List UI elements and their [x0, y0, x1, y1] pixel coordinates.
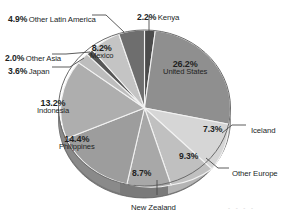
label-other-europe-pct-wrap: 9.3% [179, 146, 198, 163]
label-japan: 3.6%Japan [8, 61, 49, 78]
label-indonesia: 13.2% Indonesia [37, 99, 69, 115]
label-new-zealand: New Zealand [131, 197, 176, 214]
label-other-europe-pct: 9.3% [179, 151, 198, 161]
label-other-latin-america: 4.9%Other Latin America [8, 9, 96, 26]
label-philippines: 14.4% Philippines [59, 135, 95, 151]
pie-chart-figure: 4.9%Other Latin America 2.2%Kenya 2.0%Ot… [0, 0, 289, 217]
label-philippines-name: Philippines [59, 143, 95, 151]
label-new-zealand-pct-wrap: 8.7% [132, 163, 151, 180]
label-kenya-name: Kenya [158, 13, 180, 22]
label-other-europe: Other Europe [232, 163, 278, 180]
label-kenya: 2.2%Kenya [137, 7, 179, 24]
label-indonesia-name: Indonesia [37, 107, 69, 115]
leader-line-other-latin-america [92, 15, 124, 32]
label-other-latin-america-pct: 4.9% [8, 14, 27, 24]
label-mexico-name: Mexico [90, 52, 113, 60]
label-iceland: Iceland [251, 120, 275, 137]
label-new-zealand-name: New Zealand [131, 203, 176, 212]
label-united-states: 26.2% United States [163, 60, 207, 76]
label-kenya-pct: 2.2% [137, 12, 156, 22]
label-iceland-name: Iceland [251, 126, 275, 135]
label-japan-pct: 3.6% [8, 66, 27, 76]
label-iceland-pct: 7.3% [203, 124, 222, 134]
label-iceland-pct-wrap: 7.3% [203, 119, 222, 136]
label-united-states-name: United States [163, 68, 207, 76]
label-new-zealand-pct: 8.7% [132, 168, 151, 178]
label-mexico: 8.2% Mexico [90, 44, 113, 60]
label-other-europe-name: Other Europe [232, 169, 278, 178]
label-japan-name: Japan [29, 67, 50, 76]
scan-artifact: - - - - [228, 205, 255, 211]
label-other-latin-america-name: Other Latin America [29, 15, 96, 24]
